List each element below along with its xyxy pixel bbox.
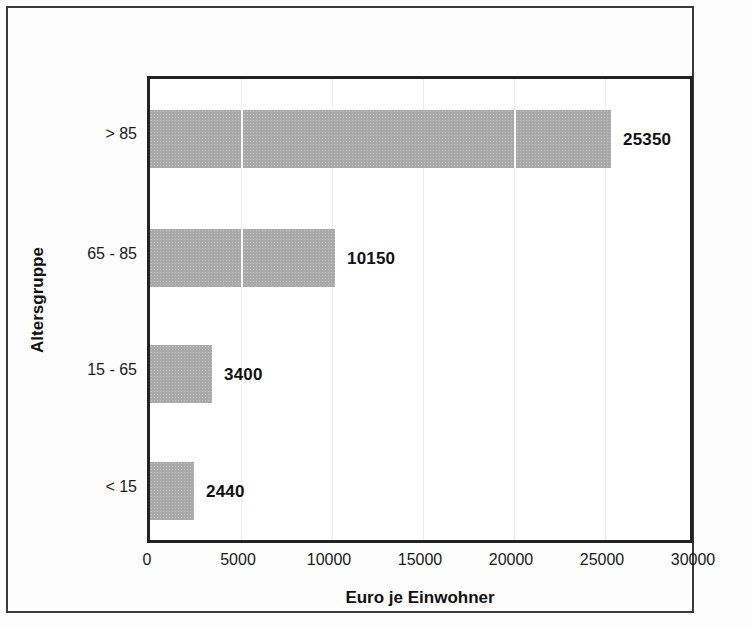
y-tick-label-over-85: > 85 xyxy=(105,125,137,143)
y-tick-label-15-65: 15 - 65 xyxy=(87,361,137,379)
x-axis-title: Euro je Einwohner xyxy=(147,588,693,608)
y-tick-label-65-85: 65 - 85 xyxy=(87,245,137,263)
bar-chart-figure: Altersgruppe > 85 65 - 85 15 - 65 < 15 xyxy=(0,0,751,629)
x-tick-label-30000: 30000 xyxy=(671,551,716,569)
scanned-page: Altersgruppe > 85 65 - 85 15 - 65 < 15 xyxy=(0,0,751,629)
bar-under-15 xyxy=(150,462,194,520)
bar-gridline-20000 xyxy=(514,110,516,168)
plot-area-frame: 25350 10150 3400 2440 xyxy=(147,76,693,543)
x-tick-label-20000: 20000 xyxy=(489,551,534,569)
x-tick-label-5000: 5000 xyxy=(220,551,256,569)
y-tick-label-under-15: < 15 xyxy=(105,478,137,496)
bar-gridline-5000 xyxy=(241,110,243,168)
bar-65-85 xyxy=(150,229,335,287)
plot-area: 25350 10150 3400 2440 xyxy=(150,79,690,540)
y-axis-title: Altersgruppe xyxy=(28,200,48,400)
bar-value-label-over-85: 25350 xyxy=(623,130,671,150)
x-tick-label-10000: 10000 xyxy=(307,551,352,569)
bar-over-85 xyxy=(150,110,611,168)
bar-value-label-15-65: 3400 xyxy=(224,365,263,385)
bar-value-label-65-85: 10150 xyxy=(347,249,395,269)
x-tick-label-0: 0 xyxy=(143,551,152,569)
bar-value-label-under-15: 2440 xyxy=(206,482,245,502)
x-tick-label-25000: 25000 xyxy=(580,551,625,569)
bar-gridline-5000 xyxy=(241,229,243,287)
x-tick-label-15000: 15000 xyxy=(398,551,443,569)
bar-15-65 xyxy=(150,345,212,403)
